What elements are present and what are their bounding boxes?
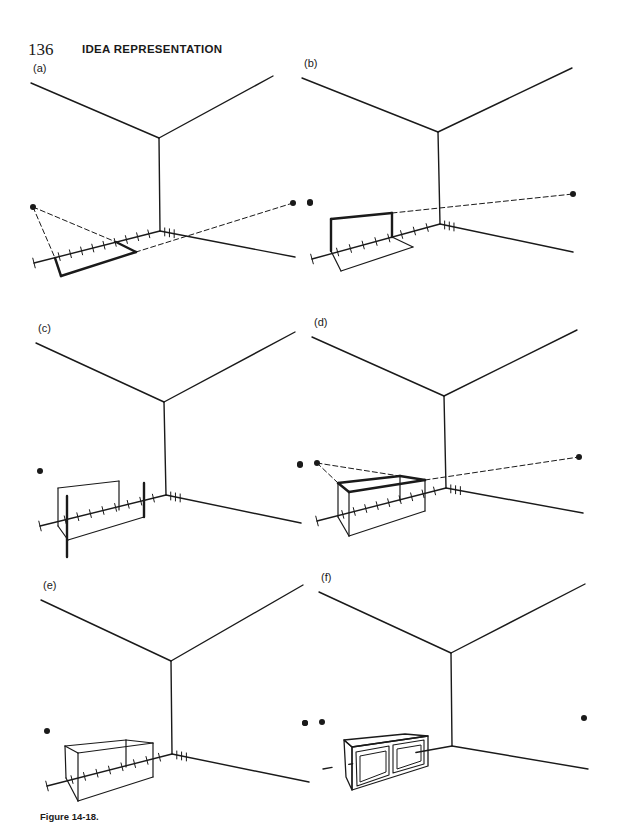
box-edge-heavy	[400, 476, 425, 480]
box-edge	[78, 777, 153, 801]
ceiling-edge-right	[164, 332, 295, 402]
wall-corner-edge	[438, 132, 440, 224]
panel-label: (a)	[33, 62, 46, 74]
vanishing-point-dot	[37, 468, 43, 474]
panel-a: (a)	[30, 62, 313, 276]
wall-corner-edge	[159, 138, 160, 231]
panel-f: (f)	[302, 571, 588, 790]
box-edge-heavy	[61, 252, 136, 276]
vanishing-point-dot	[570, 191, 576, 197]
box-edge	[78, 743, 153, 753]
vanishing-point-dot	[44, 728, 50, 734]
box-edge-heavy	[331, 213, 392, 219]
perspective-figure: (a)(b)(c)(d)(e)(f)	[0, 0, 617, 839]
box-edge	[331, 251, 341, 271]
floor-edge-left	[317, 488, 446, 521]
box-edge	[65, 746, 78, 753]
panel-e: (e)	[41, 579, 309, 801]
ceiling-edge-right	[451, 584, 585, 653]
box-edge	[338, 517, 349, 536]
box-edge	[65, 746, 66, 778]
ceiling-edge-left	[312, 337, 444, 396]
floor-edge-right	[166, 495, 301, 523]
vanishing-point-dot	[302, 720, 308, 726]
ceiling-edge-left	[36, 343, 164, 402]
box-edge	[68, 517, 144, 540]
panel-d: (d)	[297, 316, 583, 536]
box-edge	[58, 481, 119, 488]
construction-line	[425, 457, 579, 480]
panel-label: (b)	[304, 57, 317, 69]
ceiling-edge-left	[41, 600, 171, 661]
ceiling-edge-left	[302, 78, 438, 132]
vanishing-point-dot	[307, 199, 313, 205]
floor-edge-right	[446, 488, 583, 513]
box-edge	[65, 740, 126, 746]
cabinet-front	[352, 736, 428, 790]
panel-label: (e)	[43, 579, 56, 591]
floor-edge-right	[160, 231, 295, 257]
construction-line	[392, 194, 573, 213]
box-edge-heavy	[116, 242, 136, 252]
vanishing-point-dot	[581, 715, 587, 721]
vanishing-point-dot	[30, 204, 36, 210]
ceiling-edge-right	[171, 585, 303, 661]
vanishing-point-dot	[314, 460, 320, 466]
floor-edge-left	[34, 231, 160, 263]
panel-label: (f)	[321, 571, 331, 583]
ceiling-edge-right	[438, 68, 572, 132]
cabinet-top	[344, 734, 428, 747]
ceiling-edge-left	[31, 83, 159, 138]
box-edge-heavy	[349, 480, 425, 492]
ceiling-edge-left	[319, 592, 451, 653]
cabinet-side	[344, 740, 352, 790]
floor-edge-right	[440, 224, 573, 252]
box-edge-heavy	[338, 483, 349, 492]
box-edge	[349, 511, 425, 536]
box-edge	[341, 247, 413, 271]
box-edge-heavy	[338, 476, 400, 483]
cabinet-drawing	[344, 734, 428, 790]
ceiling-edge-right	[444, 330, 577, 396]
wall-corner-edge	[451, 653, 452, 746]
floor-edge-right	[452, 746, 588, 769]
vanishing-point-dot	[290, 200, 296, 206]
ceiling-edge-right	[159, 76, 273, 138]
wall-corner-edge	[444, 396, 446, 488]
floor-edge-left	[323, 767, 332, 769]
box-edge	[126, 740, 153, 743]
panel-label: (d)	[314, 316, 327, 328]
wall-corner-edge	[171, 661, 172, 754]
floor-edge-right	[172, 754, 309, 782]
wall-corner-edge	[164, 402, 166, 495]
panel-b: (b)	[302, 57, 576, 271]
vanishing-point-dot	[297, 461, 303, 467]
vanishing-point-dot	[576, 454, 582, 460]
panel-label: (c)	[38, 322, 51, 334]
panel-c: (c)	[36, 322, 303, 557]
vanishing-point-dot	[319, 719, 325, 725]
